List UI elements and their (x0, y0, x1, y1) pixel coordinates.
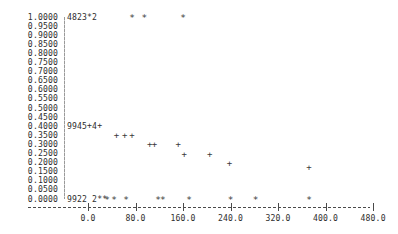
data-point-marker: * (180, 13, 187, 22)
x-axis-tick-label: 480.0 (361, 213, 386, 223)
data-point-marker: * (123, 195, 130, 204)
data-point-marker: * (252, 195, 259, 204)
x-axis-tick-label: 160.0 (170, 213, 195, 223)
x-axis-tick-mark (136, 203, 137, 211)
data-point-marker: * (128, 13, 135, 22)
data-point-marker: + (151, 140, 158, 149)
overplot-count-label: 9945+4+ (67, 122, 102, 131)
x-axis-tick-mark (326, 203, 327, 211)
x-axis-tick-mark (373, 203, 374, 211)
x-axis-tick-mark (183, 203, 184, 211)
x-axis-tick-label: 240.0 (218, 213, 243, 223)
y-axis-tick-label: 0.0000 (0, 195, 58, 204)
data-point-marker: * (104, 195, 111, 204)
data-point-marker: * (305, 195, 312, 204)
overplot-count-label: 4823*2 (67, 13, 97, 22)
data-point-marker: * (111, 195, 118, 204)
x-axis-tick-label: 400.0 (313, 213, 338, 223)
data-point-marker: + (181, 149, 188, 158)
data-point-marker: + (305, 163, 312, 172)
data-point-marker: + (206, 149, 213, 158)
x-axis-tick-mark (231, 203, 232, 211)
data-point-marker: + (121, 131, 128, 140)
y-axis-rule (64, 17, 65, 199)
x-axis-tick-label: 320.0 (266, 213, 291, 223)
data-point-marker: + (128, 131, 135, 140)
x-axis-tick-mark (88, 203, 89, 211)
scatter-plot-figure: 1.00000.95000.90000.85000.80000.75000.70… (0, 0, 398, 234)
data-point-marker: + (175, 140, 182, 149)
data-point-marker: + (226, 158, 233, 167)
data-point-marker: + (113, 131, 120, 140)
x-axis-tick-label: 80.0 (125, 213, 145, 223)
x-axis-rule (28, 207, 370, 208)
data-point-marker: * (141, 13, 148, 22)
data-point-marker: * (159, 195, 166, 204)
x-axis-tick-mark (278, 203, 279, 211)
data-point-marker: * (185, 195, 192, 204)
x-axis-tick-label: 0.0 (80, 213, 95, 223)
